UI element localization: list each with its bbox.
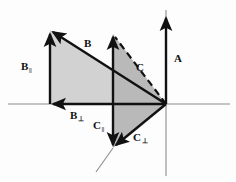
vector-diagram-figure: A B B|| B⊥ C C|| C⊥ [0,0,236,182]
label-vector-c-perpendicular-base: C [133,131,141,143]
vector-diagram-canvas [0,0,236,182]
label-vector-a-base: A [174,52,182,64]
label-vector-b-perpendicular-base: B [70,109,78,121]
label-vector-c-base: C [136,61,144,73]
label-vector-c-parallel-base: C [93,119,101,131]
label-vector-b-parallel: B|| [21,61,31,74]
label-vector-c: C [136,62,145,75]
label-vector-c-perpendicular: C⊥ [133,132,147,145]
c-extension-line [96,148,113,172]
label-vector-c-parallel: C|| [93,120,104,133]
shaded-regions [50,30,166,148]
label-vector-b: B [84,38,92,51]
label-vector-b-parallel-base: B [21,60,29,72]
label-vector-a: A [174,53,183,66]
label-vector-c-perpendicular-sub: ⊥ [141,137,147,145]
label-vector-c-parallel-sub: || [101,125,104,133]
label-vector-b-parallel-sub: || [29,66,32,74]
label-vector-b-perpendicular: B⊥ [70,110,84,123]
label-vector-b-base: B [84,37,92,49]
label-vector-b-perpendicular-sub: ⊥ [78,115,84,123]
